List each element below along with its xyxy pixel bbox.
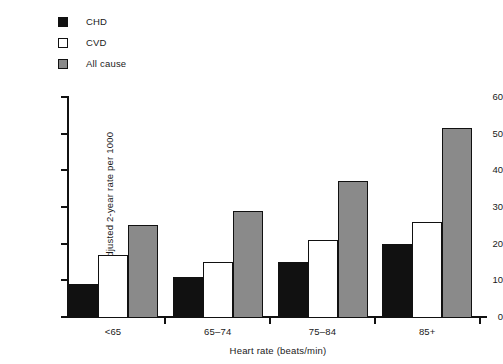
bar-cvd-65–74 [203,262,233,318]
bar-all-cause-<65 [128,225,158,318]
bar-all-cause-65–74 [233,211,263,318]
bar-cvd-85+ [412,222,442,318]
bar-chart: Age-adjusted 2-year rate per 1000 010203… [0,0,503,364]
x-category-label-3: 85+ [372,327,482,337]
y-tick-label-60: 60 [447,92,503,102]
y-tick-30 [61,206,68,208]
bar-cvd-<65 [98,255,128,318]
y-tick-10 [61,279,68,281]
bar-chd-<65 [68,284,98,318]
x-category-label-0: <65 [58,327,168,337]
x-category-label-1: 65–74 [163,327,273,337]
x-tick-3 [479,318,481,324]
y-tick-40 [61,169,68,171]
y-tick-50 [61,133,68,135]
bar-chd-65–74 [173,277,203,318]
x-axis-title: Heart rate (beats/min) [68,345,488,356]
x-axis-title-text: Heart rate (beats/min) [230,345,327,356]
bar-cvd-75–84 [308,240,338,318]
bar-chd-75–84 [278,262,308,318]
y-tick-60 [61,96,68,98]
x-tick-2 [374,318,376,324]
y-tick-0 [61,316,68,318]
y-tick-20 [61,243,68,245]
x-tick-1 [269,318,271,324]
x-tick-0 [164,318,166,324]
bar-all-cause-75–84 [338,181,368,318]
bar-chd-85+ [382,244,412,318]
x-category-label-2: 75–84 [268,327,378,337]
bar-all-cause-85+ [442,128,472,318]
